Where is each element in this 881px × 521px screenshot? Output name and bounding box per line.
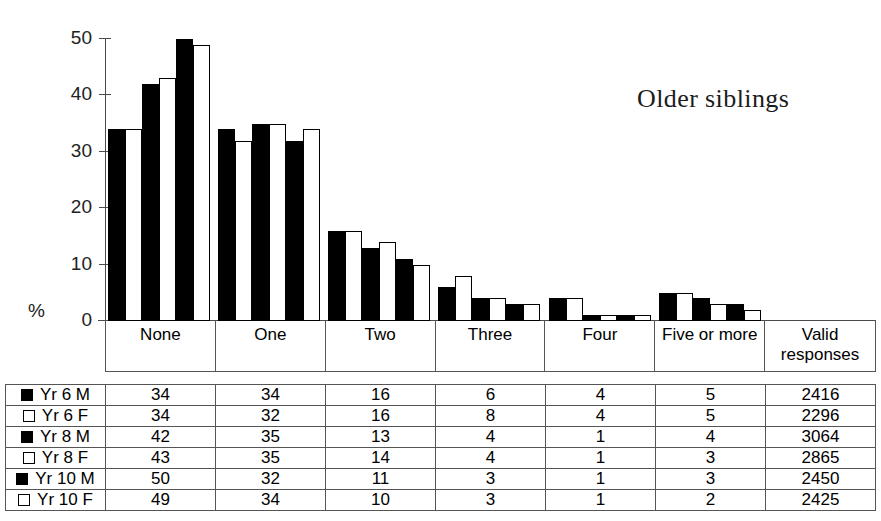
valid-responses-header-text: Validresponses — [765, 325, 875, 365]
bar — [193, 45, 210, 321]
column-header-category: None — [106, 320, 216, 371]
cell-valid-responses: 2425 — [765, 490, 875, 511]
cell-value: 35 — [215, 448, 325, 469]
cell-value: 50 — [105, 469, 215, 490]
category-label: One — [254, 325, 286, 345]
column-header-category: Four — [545, 320, 655, 371]
bar — [345, 231, 362, 321]
cell-value: 34 — [105, 406, 215, 427]
category-label: Five or more — [662, 325, 757, 345]
bar-group — [105, 0, 215, 321]
legend-cell: Yr 6 F — [6, 406, 106, 427]
cell-value: 5 — [655, 406, 765, 427]
cell-value: 34 — [105, 385, 215, 406]
column-header-category: Three — [436, 320, 546, 371]
cell-value: 10 — [325, 490, 435, 511]
cell-value: 2 — [655, 490, 765, 511]
cell-value: 1 — [545, 427, 655, 448]
bar — [379, 242, 396, 321]
bars-layer — [0, 0, 881, 321]
cell-value: 4 — [545, 385, 655, 406]
table-row: Yr 10 M5032113132450 — [6, 469, 876, 490]
table-row: Yr 8 M4235134143064 — [6, 427, 876, 448]
cell-value: 3 — [655, 469, 765, 490]
cell-value: 1 — [545, 490, 655, 511]
legend-cell: Yr 6 M — [6, 385, 106, 406]
legend-cell: Yr 10 M — [6, 469, 106, 490]
table-row: Yr 6 F3432168452296 — [6, 406, 876, 427]
series-label: Yr 10 F — [37, 490, 93, 509]
cell-value: 14 — [325, 448, 435, 469]
bar — [659, 293, 676, 321]
cell-valid-responses: 2450 — [765, 469, 875, 490]
cell-value: 34 — [215, 385, 325, 406]
bar-group — [546, 0, 656, 321]
cell-value: 13 — [325, 427, 435, 448]
bar — [108, 129, 125, 321]
bar — [176, 39, 193, 321]
series-label: Yr 6 F — [42, 406, 88, 425]
cell-value: 6 — [435, 385, 545, 406]
legend-cell: Yr 10 F — [6, 490, 106, 511]
bar — [142, 84, 159, 321]
legend-cell: Yr 8 F — [6, 448, 106, 469]
cell-value: 4 — [435, 427, 545, 448]
bar — [676, 293, 693, 321]
category-label: None — [140, 325, 181, 345]
bar — [286, 141, 303, 321]
outlined-square-icon — [18, 494, 30, 506]
bar — [549, 298, 566, 321]
cell-valid-responses: 2416 — [765, 385, 875, 406]
cell-value: 16 — [325, 385, 435, 406]
cell-valid-responses: 2865 — [765, 448, 875, 469]
cell-value: 3 — [435, 490, 545, 511]
filled-square-icon — [21, 431, 33, 443]
series-label: Yr 8 M — [40, 427, 90, 446]
valid-responses-line2: responses — [781, 345, 859, 364]
cell-value: 35 — [215, 427, 325, 448]
cell-value: 34 — [215, 490, 325, 511]
bar — [328, 231, 345, 321]
bar — [125, 129, 142, 321]
bar — [413, 265, 430, 321]
cell-value: 4 — [435, 448, 545, 469]
column-header-category: One — [216, 320, 326, 371]
cell-value: 1 — [545, 448, 655, 469]
cell-value: 49 — [105, 490, 215, 511]
table-row: Yr 10 F4934103122425 — [6, 490, 876, 511]
cell-value: 3 — [655, 448, 765, 469]
legend-cell: Yr 8 M — [6, 427, 106, 448]
bar — [710, 304, 727, 321]
category-label: Two — [365, 325, 396, 345]
bar — [438, 287, 455, 321]
bar — [396, 259, 413, 321]
cell-value: 8 — [435, 406, 545, 427]
cell-valid-responses: 2296 — [765, 406, 875, 427]
bar — [489, 298, 506, 321]
category-label: Four — [582, 325, 617, 345]
bar-group — [656, 0, 766, 321]
cell-value: 32 — [215, 469, 325, 490]
bar — [235, 141, 252, 321]
table-row: Yr 8 F4335144132865 — [6, 448, 876, 469]
bar-group — [435, 0, 545, 321]
cell-value: 42 — [105, 427, 215, 448]
cell-valid-responses: 3064 — [765, 427, 875, 448]
bar — [727, 304, 744, 321]
bar — [566, 298, 583, 321]
bar — [269, 124, 286, 321]
cell-value: 3 — [435, 469, 545, 490]
bar — [693, 298, 710, 321]
cell-value: 4 — [545, 406, 655, 427]
filled-square-icon — [21, 389, 33, 401]
column-header-category: Two — [326, 320, 436, 371]
category-header-row: NoneOneTwoThreeFourFive or moreValidresp… — [105, 320, 876, 372]
bar — [218, 129, 235, 321]
data-table: Yr 6 M3434166452416Yr 6 F3432168452296Yr… — [5, 384, 876, 511]
bar — [159, 78, 176, 321]
filled-square-icon — [16, 473, 28, 485]
cell-value: 32 — [215, 406, 325, 427]
series-label: Yr 6 M — [40, 385, 90, 404]
series-label: Yr 8 F — [42, 448, 88, 467]
cell-value: 1 — [545, 469, 655, 490]
